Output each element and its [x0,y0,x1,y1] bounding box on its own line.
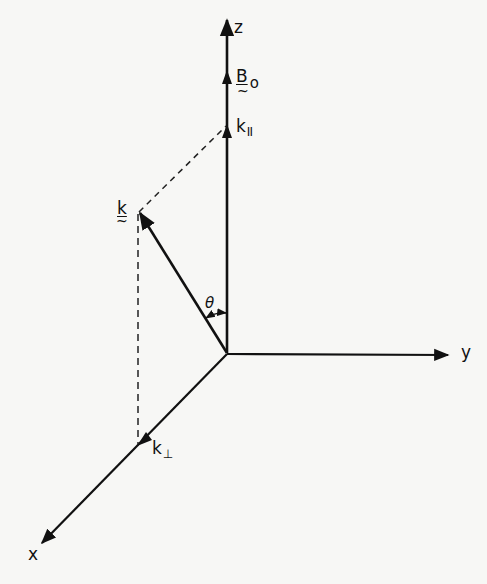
x-axis-label: x [28,546,38,563]
y-axis [227,354,448,355]
y-axis-label: y [461,344,471,361]
z-axis-label: z [234,19,243,36]
b0-tilde: ~ [237,84,249,98]
x-text: x [28,544,38,564]
z-text: z [234,17,243,37]
k-perp-label: k⊥ [152,440,173,457]
b0-arrowhead [222,70,232,84]
theta-label: θ [205,296,214,311]
b-subscript: o [250,74,259,92]
k-parallel-arrowhead [222,124,232,138]
k-tilde: ~ [116,214,128,228]
k-vector [140,213,227,353]
y-text: y [461,342,471,362]
k-perp-symbol: k [152,438,162,458]
theta-arc [206,313,226,318]
x-axis [42,354,227,543]
k-parallel-label: kII [236,118,252,135]
k-perp-subscript: ⊥ [163,447,173,461]
k-parallel-subscript: II [247,125,252,139]
k-parallel-symbol: k [236,116,246,136]
theta-text: θ [205,294,214,312]
projection-to-k-parallel [139,126,226,212]
